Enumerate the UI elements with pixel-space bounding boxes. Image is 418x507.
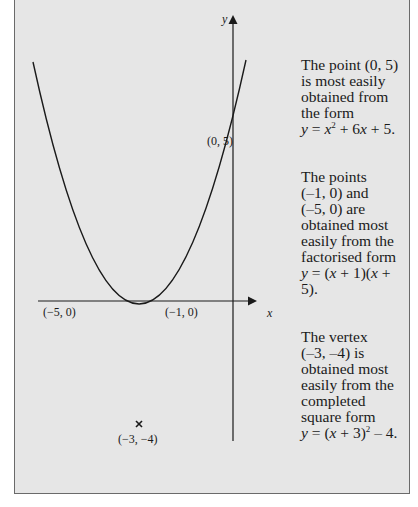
label-root-left: (−5, 0) — [43, 305, 76, 319]
note-line: obtained most — [301, 361, 411, 377]
note-line: (–1, 0) and — [301, 185, 411, 201]
note-line: is most easily — [301, 73, 411, 89]
equation-factorised-form: y = (x + 1)(x + 5). — [301, 265, 411, 297]
label-y-intercept: (0, 5) — [207, 134, 233, 148]
note-line: The points — [301, 169, 411, 185]
equation-completed-square-form: y = (x + 3)2 – 4. — [301, 425, 411, 441]
note-line: obtained from — [301, 89, 411, 105]
note-line: (–5, 0) are — [301, 201, 411, 217]
note-line: easily from the — [301, 377, 411, 393]
note-line: the form — [301, 105, 411, 121]
note-line: obtained most — [301, 217, 411, 233]
note-y-intercept: The point (0, 5) is most easily obtained… — [301, 57, 411, 137]
note-line: (–3, –4) is — [301, 345, 411, 361]
x-axis-label: x — [266, 306, 273, 320]
note-line: factorised form — [301, 249, 411, 265]
y-axis-label: y — [221, 12, 228, 26]
note-line: square form — [301, 409, 411, 425]
note-line: The point (0, 5) — [301, 57, 411, 73]
label-vertex: (−3, −4) — [118, 432, 158, 446]
parabola-curve — [33, 60, 246, 304]
explanation-notes: The point (0, 5) is most easily obtained… — [301, 57, 411, 473]
note-line: easily from the — [301, 233, 411, 249]
label-root-right: (−1, 0) — [165, 305, 198, 319]
equation-expanded-form: y = x2 + 6x + 5. — [301, 121, 411, 137]
x-axis-arrow-icon — [248, 297, 257, 306]
note-roots: The points (–1, 0) and (–5, 0) are obtai… — [301, 169, 411, 297]
note-line: completed — [301, 393, 411, 409]
y-axis-arrow-icon — [229, 15, 238, 24]
note-line: The vertex — [301, 329, 411, 345]
vertex-marker-icon — [136, 421, 142, 427]
note-vertex: The vertex (–3, –4) is obtained most eas… — [301, 329, 411, 441]
